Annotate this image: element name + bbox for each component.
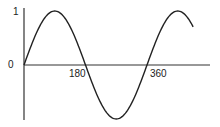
y-tick-1: 1: [13, 7, 19, 17]
x-tick-360: 360: [150, 69, 167, 79]
x-tick-180: 180: [69, 69, 86, 79]
sine-chart: [0, 0, 220, 127]
y-tick-0: 0: [8, 60, 14, 70]
